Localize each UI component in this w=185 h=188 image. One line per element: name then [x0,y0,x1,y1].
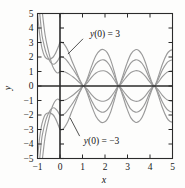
y-tick-label: −4 [23,139,33,149]
y-tick-label: 0 [29,81,34,91]
y-tick-label: −1 [23,96,33,106]
upper-annotation-label: y(0) = 3 [89,29,120,40]
lower-annotation-label: y(0) = −3 [83,136,120,147]
y-tick-label: 3 [29,38,34,48]
x-tick-label: 2 [103,162,108,172]
figure-container: −1012345543210−1−2−3−4−5 y(0) = 3y(0) = … [0,0,185,188]
x-tick-label: 4 [148,162,153,172]
x-tick-label: 3 [125,162,130,172]
y-tick-label: −2 [23,110,33,120]
y-axis-title: y [2,85,13,91]
y-tick-label: 4 [29,23,34,33]
x-tick-label: 0 [58,162,63,172]
y-tick-label: 1 [29,67,34,77]
y-tick-label: −5 [23,154,33,164]
y-tick-label: 2 [29,52,34,62]
ode-solution-plot: −1012345543210−1−2−3−4−5 y(0) = 3y(0) = … [0,0,185,188]
y-tick-label: −3 [23,125,33,135]
x-axis-title: x [101,174,107,185]
x-tick-label: 5 [170,162,175,172]
x-tick-label: −1 [32,162,42,172]
y-tick-label: 5 [29,9,34,19]
x-tick-label: 1 [80,162,85,172]
